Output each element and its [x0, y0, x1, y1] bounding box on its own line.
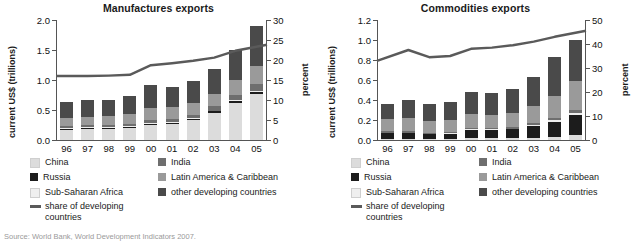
y-axis-label-left-manufactures: current US$ (trillions) — [7, 46, 17, 138]
legend-item-india: India — [158, 156, 278, 168]
y-tick-label-right: 30 — [592, 63, 603, 74]
y-tick-label-right: 0 — [592, 135, 597, 146]
y-tick-label-left: 1.0 — [358, 35, 371, 46]
y-tick-label-right: 40 — [592, 39, 603, 50]
y-tick-right — [586, 116, 590, 117]
y-tick-right — [267, 140, 271, 141]
y-tick-label-right: 5 — [273, 115, 278, 126]
share-of-developing-countries-line — [377, 20, 586, 140]
legend-item-latin-america: Latin America & Caribbean — [158, 171, 278, 183]
legend-item-sub-saharan-africa: Sub-Saharan Africa — [351, 186, 462, 198]
y-tick-right — [267, 100, 271, 101]
y-tick-label-left: 2.0 — [37, 15, 50, 26]
legend-label-china: China — [366, 156, 390, 168]
legend-label-russia: Russia — [364, 171, 392, 183]
y-tick-right — [267, 80, 271, 81]
y-tick-label-right: 10 — [273, 95, 284, 106]
x-tick-label-97: 97 — [403, 143, 414, 154]
legend-swatch-china — [30, 158, 40, 168]
y-tick-label-left: 0.8 — [358, 55, 371, 66]
y-tick-right — [586, 44, 590, 45]
chart-title-manufactures: Manufactures exports — [0, 2, 317, 14]
source-note: Source: World Bank, World Development In… — [4, 232, 196, 241]
legend-label-other-developing: other developing countries — [492, 186, 598, 198]
legend-swatch-line-icon — [30, 205, 41, 208]
y-tick-label-left: 1.0 — [37, 75, 50, 86]
y-tick-label-left: 0.5 — [37, 105, 50, 116]
legend-swatch-other-developing — [158, 188, 166, 196]
legend-item-china: China — [351, 156, 462, 168]
legend-swatch-other-developing — [479, 188, 487, 196]
y-axis-label-right-manufactures: percent — [300, 63, 310, 96]
y-axis-label-left-commodities: current US$ (trillions) — [327, 46, 337, 138]
chart-panel-manufactures: Manufactures exports current US$ (trilli… — [0, 0, 317, 242]
y-tick-left — [373, 140, 377, 141]
x-tick-label-02: 02 — [188, 143, 199, 154]
legend-item-other-developing: other developing countries — [158, 186, 278, 198]
y-tick-label-right: 20 — [592, 87, 603, 98]
legend-item-russia: Russia — [30, 171, 141, 183]
legend-swatch-russia — [351, 173, 359, 181]
plot-area-commodities: 0.00.20.40.60.81.01.20102030405096979899… — [377, 20, 586, 140]
legend-swatch-latin-america — [158, 173, 166, 181]
legend-item-china: China — [30, 156, 141, 168]
axis-bottom — [377, 140, 586, 141]
y-tick-label-left: 1.2 — [358, 15, 371, 26]
x-tick-label-99: 99 — [445, 143, 456, 154]
x-tick-label-96: 96 — [61, 143, 72, 154]
legend-swatch-sub-saharan-africa — [351, 188, 361, 198]
x-tick-label-98: 98 — [103, 143, 114, 154]
y-tick-label-right: 15 — [273, 75, 284, 86]
legend-label-other-developing: other developing countries — [171, 186, 277, 198]
y-tick-right — [586, 68, 590, 69]
legend-item-share-line: share of developing countries — [30, 201, 141, 213]
legend-item-sub-saharan-africa: Sub-Saharan Africa — [30, 186, 141, 198]
x-tick-label-97: 97 — [82, 143, 93, 154]
legend-label-sub-saharan-africa: Sub-Saharan Africa — [366, 186, 444, 198]
legend-swatch-sub-saharan-africa — [30, 188, 40, 198]
x-tick-label-05: 05 — [570, 143, 581, 154]
x-tick-label-03: 03 — [528, 143, 539, 154]
y-tick-label-left: 0.6 — [358, 75, 371, 86]
x-tick-label-02: 02 — [508, 143, 519, 154]
legend-label-china: China — [45, 156, 69, 168]
y-tick-right — [267, 60, 271, 61]
y-tick-label-right: 50 — [592, 15, 603, 26]
legend-item-share-line: share of developing countries — [351, 201, 462, 213]
legend-item-latin-america: Latin America & Caribbean — [479, 171, 599, 183]
share-of-developing-countries-line — [56, 20, 267, 140]
legend-item-india: India — [479, 156, 599, 168]
legend-swatch-line-icon — [351, 205, 362, 208]
legend-swatch-russia — [30, 173, 38, 181]
y-tick-label-right: 10 — [592, 111, 603, 122]
y-tick-right — [267, 40, 271, 41]
legend-label-russia: Russia — [43, 171, 71, 183]
legend-swatch-china — [351, 158, 361, 168]
x-tick-label-01: 01 — [487, 143, 498, 154]
y-tick-label-left: 0.0 — [358, 135, 371, 146]
y-tick-label-right: 0 — [273, 135, 278, 146]
figure-two-panel-charts: Manufactures exports current US$ (trilli… — [0, 0, 634, 242]
y-tick-left — [52, 140, 56, 141]
x-tick-label-00: 00 — [146, 143, 157, 154]
legend-swatch-latin-america — [479, 173, 487, 181]
y-tick-label-right: 25 — [273, 35, 284, 46]
x-tick-label-03: 03 — [209, 143, 220, 154]
legend-label-sub-saharan-africa: Sub-Saharan Africa — [45, 186, 123, 198]
legend-label-india: India — [171, 156, 191, 168]
y-tick-right — [267, 120, 271, 121]
y-tick-label-left: 0.0 — [37, 135, 50, 146]
x-tick-label-04: 04 — [230, 143, 241, 154]
y-tick-right — [586, 92, 590, 93]
y-tick-label-right: 30 — [273, 15, 284, 26]
y-tick-label-left: 0.2 — [358, 115, 371, 126]
legend-item-other-developing: other developing countries — [479, 186, 599, 198]
x-tick-label-01: 01 — [167, 143, 178, 154]
x-tick-label-98: 98 — [424, 143, 435, 154]
plot-area-manufactures: 0.00.51.01.52.00510152025309697989900010… — [56, 20, 267, 140]
x-tick-label-00: 00 — [466, 143, 477, 154]
legend-label-share-line: share of developing countries — [366, 201, 462, 224]
legend-swatch-india — [479, 158, 487, 166]
y-tick-label-right: 20 — [273, 55, 284, 66]
y-tick-label-left: 1.5 — [37, 45, 50, 56]
